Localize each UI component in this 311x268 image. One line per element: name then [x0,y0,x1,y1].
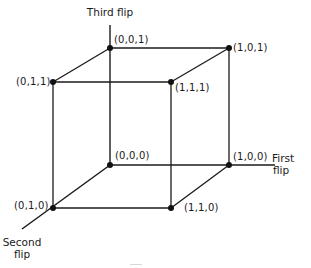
vertex-label-001: (0,0,1) [114,34,149,45]
vertex-111-dot [168,79,174,85]
vertex-000-dot [107,162,113,168]
second-flip-label-line1: Second [0,236,44,248]
vertex-label-101: (1,0,1) [233,42,268,53]
first-flip-label: First flip [272,152,308,176]
edge-001-011 [53,48,110,82]
vertex-011-dot [50,79,56,85]
edge-101-111 [171,48,229,82]
vertex-label-111: (1,1,1) [175,82,210,93]
vertex-label-000: (0,0,0) [115,150,150,161]
second-flip-label: Second flip [0,236,44,260]
third-flip-label: Third flip [80,6,140,18]
vertex-100-dot [226,162,232,168]
vertex-001-dot [107,45,113,51]
vertex-101-dot [226,45,232,51]
vertex-label-011: (0,1,1) [16,76,51,87]
second-flip-axis [22,165,110,229]
third-flip-label-text: Third flip [87,6,133,18]
first-flip-label-line1: First [272,152,308,164]
vertex-label-010: (0,1,0) [14,200,49,211]
second-flip-label-line2: flip [0,248,44,260]
first-flip-label-line2: flip [272,164,308,176]
vertex-label-100: (1,0,0) [233,151,268,162]
vertex-010-dot [50,205,56,211]
cube-diagram [0,0,311,268]
faded-caption-trace [130,264,142,265]
vertex-110-dot [168,205,174,211]
vertex-label-110: (1,1,0) [184,202,219,213]
